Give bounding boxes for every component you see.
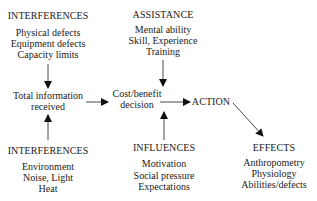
action-title: ACTION bbox=[192, 97, 230, 107]
effects-item: Abilities/defects bbox=[241, 180, 307, 190]
interferences-bottom-title: INTERFERENCES bbox=[8, 146, 89, 156]
assistance-title: ASSISTANCE bbox=[133, 10, 194, 20]
effects-title: EFFECTS bbox=[253, 143, 295, 153]
total-information-line2: received bbox=[31, 102, 65, 112]
influences-item: Expectations bbox=[138, 182, 190, 192]
assistance-item: Mental ability bbox=[135, 25, 191, 35]
effects-item: Physiology bbox=[251, 169, 296, 179]
total-information-line1: Total information bbox=[13, 91, 83, 101]
arrow-action-to-effects bbox=[233, 103, 263, 136]
influences-item: Motivation bbox=[142, 159, 186, 169]
interferences-top-item: Equipment defects bbox=[11, 39, 86, 49]
interferences-top-item: Capacity limits bbox=[18, 50, 79, 60]
interferences-bottom-item: Noise, Light bbox=[23, 173, 73, 183]
interferences-bottom-item: Environment bbox=[22, 162, 74, 172]
interferences-bottom-item: Heat bbox=[39, 184, 58, 194]
influences-item: Social pressure bbox=[134, 171, 195, 181]
assistance-item: Training bbox=[146, 47, 180, 57]
decision-line2: decision bbox=[120, 100, 153, 110]
assistance-item: Skill, Experience bbox=[129, 36, 198, 46]
influences-title: INFLUENCES bbox=[133, 143, 195, 153]
effects-item: Anthropometry bbox=[243, 158, 305, 168]
interferences-top-item: Physical defects bbox=[16, 28, 81, 38]
decision-line1: Cost/benefit bbox=[113, 89, 162, 99]
interferences-top-title: INTERFERENCES bbox=[8, 11, 89, 21]
